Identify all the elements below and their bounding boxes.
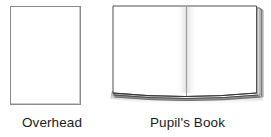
figure-overhead-caption: Overhead	[0, 114, 104, 132]
overhead-transparency-sheet-icon	[10, 6, 81, 105]
figure-pupils-book-caption: Pupil's Book	[104, 114, 271, 132]
illustration-canvas: Overhead	[0, 0, 271, 137]
book-gutter-shading-right	[187, 7, 197, 93]
figure-overhead: Overhead	[0, 0, 104, 137]
book-gutter-shading-left	[176, 7, 186, 93]
open-book-icon	[104, 0, 271, 114]
book-right-edge-shadow	[257, 7, 260, 94]
figure-pupils-book: Pupil's Book	[104, 0, 271, 137]
